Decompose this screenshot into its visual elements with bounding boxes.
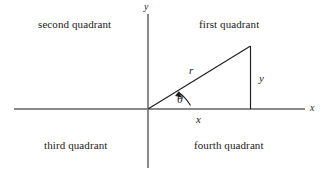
angle-label-theta: θ — [177, 92, 183, 107]
quadrant-label-fourth: fourth quadrant — [194, 139, 264, 151]
diagram-canvas: second quadrant first quadrant third qua… — [0, 0, 332, 179]
quadrant-label-second: second quadrant — [38, 18, 111, 30]
horizontal-leg-label-x: x — [196, 113, 201, 125]
x-axis-label: x — [310, 102, 314, 113]
hypotenuse-label-r: r — [189, 64, 193, 76]
theta-angle-arc — [148, 92, 191, 109]
quadrant-label-third: third quadrant — [44, 139, 107, 151]
triangle-hypotenuse — [148, 46, 251, 109]
vertical-leg-label-y: y — [259, 72, 264, 84]
y-axis-label: y — [144, 1, 148, 12]
quadrant-label-first: first quadrant — [199, 18, 259, 30]
